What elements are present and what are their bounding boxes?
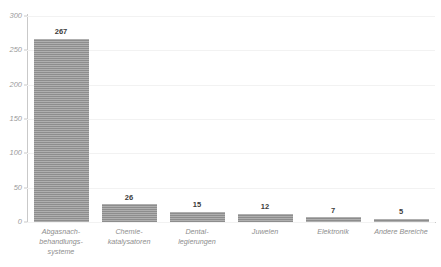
- bar-series: 26726151275: [27, 16, 435, 222]
- bar-slot: 5: [367, 16, 435, 222]
- x-axis-category-label: Juwelen: [231, 227, 299, 237]
- source-note: [329, 259, 437, 267]
- y-axis-tick-label: 300: [0, 12, 22, 20]
- bar-slot: 267: [27, 16, 95, 222]
- y-axis-tick-label: 0: [0, 218, 22, 226]
- y-axis-tick-label: 50: [0, 184, 22, 192]
- bar-slot: 26: [95, 16, 163, 222]
- y-axis-tick-label: 150: [0, 115, 22, 123]
- bar[interactable]: 26: [102, 204, 157, 222]
- x-axis-category-label: Chemie-katalysatoren: [95, 227, 163, 247]
- bar-value-label: 12: [261, 203, 269, 211]
- y-axis-tick-label: 200: [0, 81, 22, 89]
- x-axis-category-label: Andere Bereiche: [367, 227, 435, 237]
- bar-value-label: 15: [193, 201, 201, 209]
- y-axis-tick-label: 250: [0, 47, 22, 55]
- bar[interactable]: 12: [238, 214, 293, 222]
- bar-slot: 7: [299, 16, 367, 222]
- y-axis-tick-label: 100: [0, 150, 22, 158]
- x-axis-category-label: Dental-legierungen: [163, 227, 231, 247]
- bar[interactable]: 7: [306, 217, 361, 222]
- x-axis-category-label: Elektronik: [299, 227, 367, 237]
- bar-value-label: 5: [399, 208, 403, 216]
- gridline: [27, 222, 435, 223]
- plot-area: 050100150200250300 26726151275: [27, 16, 435, 222]
- x-axis-category-labels: Abgasnach-behandlungs-systemeChemie-kata…: [27, 227, 435, 258]
- bar[interactable]: 267: [34, 39, 89, 222]
- bar-value-label: 267: [55, 28, 68, 36]
- bar[interactable]: 5: [374, 219, 429, 222]
- bar-slot: 15: [163, 16, 231, 222]
- x-axis-category-label: Abgasnach-behandlungs-systeme: [27, 227, 95, 258]
- bar[interactable]: 15: [170, 212, 225, 222]
- bar-chart: 050100150200250300 26726151275 Abgasnach…: [0, 0, 441, 267]
- bar-value-label: 7: [331, 207, 335, 215]
- bar-value-label: 26: [125, 194, 133, 202]
- bar-slot: 12: [231, 16, 299, 222]
